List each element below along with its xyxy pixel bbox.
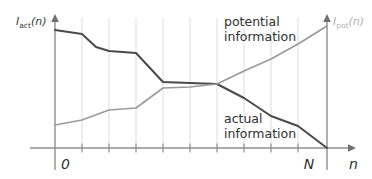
annotation-potential-information: potential information bbox=[224, 14, 296, 44]
annotation-actual-line2: information bbox=[224, 126, 296, 141]
right-axis-argument: (n) bbox=[349, 15, 365, 28]
annotation-actual-line1: actual bbox=[224, 111, 263, 126]
annotation-potential-line2: information bbox=[224, 29, 296, 44]
annotation-actual-information: actual information bbox=[224, 111, 296, 141]
right-axis-subscript: pot bbox=[336, 21, 348, 30]
left-vertical-axis bbox=[51, 14, 59, 170]
left-axis-subscript: act bbox=[19, 21, 31, 30]
x-tick-label-origin: 0 bbox=[61, 156, 70, 172]
left-axis-label: Iact(n) bbox=[16, 15, 46, 30]
right-axis-label: Ipot(n) bbox=[333, 15, 364, 30]
information-curves-figure: Iact(n) Ipot(n) 0 N n potential informat… bbox=[0, 0, 372, 179]
x-tick-label-end: N bbox=[304, 156, 315, 172]
x-axis-label: n bbox=[349, 156, 358, 172]
figure-canvas: Iact(n) Ipot(n) 0 N n potential informat… bbox=[0, 0, 372, 179]
left-axis-argument: (n) bbox=[31, 15, 47, 28]
annotation-potential-line1: potential bbox=[224, 14, 280, 29]
x-axis bbox=[30, 144, 356, 152]
